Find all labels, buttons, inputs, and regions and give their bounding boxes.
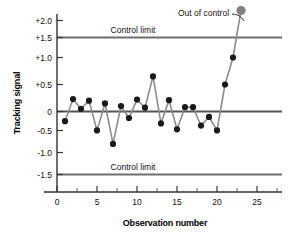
y-tick-label-0_5: +0.5 [35, 80, 52, 90]
data-point [134, 97, 140, 103]
data-point [158, 120, 164, 126]
out-of-control-label: Out of control [178, 8, 229, 18]
data-point [102, 100, 108, 106]
upper-control-limit-label: Control limit [111, 25, 157, 35]
out-of-control-leader-line [232, 14, 244, 21]
y-axis-ticks [57, 21, 63, 175]
data-point [214, 127, 220, 133]
data-point [62, 118, 68, 124]
data-point [166, 97, 172, 103]
data-point [230, 54, 236, 60]
chart-canvas: +2.0 +1.5 +1.0 +0.5 0 -0.5 -1.0 -1.5 0 5 [0, 0, 290, 239]
y-tick-label-neg1: -1.0 [37, 148, 52, 158]
data-point [190, 104, 196, 110]
data-point [174, 126, 180, 132]
data-point [182, 104, 188, 110]
y-tick-label-1_5: +1.5 [35, 33, 52, 43]
y-tick-label-1: +1.0 [35, 53, 52, 63]
data-point [150, 73, 156, 79]
x-tick-label-0: 0 [55, 197, 60, 207]
x-tick-label-15: 15 [172, 197, 182, 207]
data-point [126, 115, 132, 121]
data-point [222, 81, 228, 87]
data-point [110, 141, 116, 147]
data-point [94, 127, 100, 133]
data-point [70, 96, 76, 102]
x-tick-label-20: 20 [212, 197, 222, 207]
y-tick-label-2: +2.0 [35, 16, 52, 26]
data-point [86, 98, 92, 104]
data-point [118, 103, 124, 109]
data-point [198, 122, 204, 128]
data-point [142, 105, 148, 111]
data-point [78, 106, 84, 112]
x-tick-label-5: 5 [95, 197, 100, 207]
x-tick-label-25: 25 [252, 197, 262, 207]
tracking-signal-control-chart: +2.0 +1.5 +1.0 +0.5 0 -0.5 -1.0 -1.5 0 5 [0, 0, 290, 239]
y-tick-label-neg0_5: -0.5 [37, 126, 52, 136]
out-of-control-point [236, 6, 245, 15]
y-axis-title: Tracking signal [12, 48, 22, 158]
y-tick-label-neg1_5: -1.5 [37, 170, 52, 180]
lower-control-limit-label: Control limit [111, 162, 157, 172]
x-tick-label-10: 10 [132, 197, 142, 207]
x-axis-title: Observation number [57, 218, 273, 228]
data-point [206, 114, 212, 120]
y-tick-label-0: 0 [47, 107, 52, 117]
